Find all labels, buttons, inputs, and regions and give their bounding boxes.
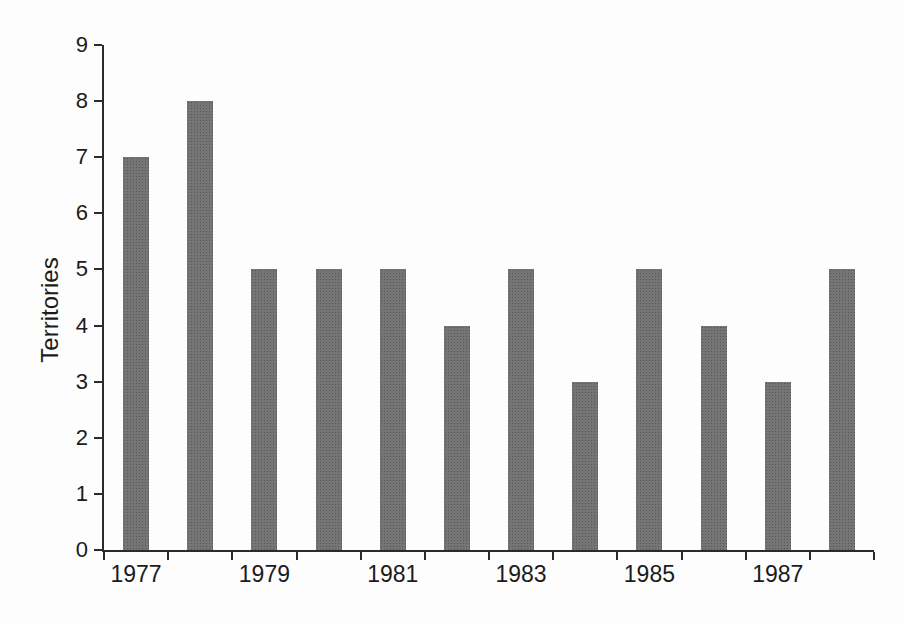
bar (316, 269, 342, 550)
y-axis-tick (94, 156, 102, 158)
x-axis-tick (424, 552, 426, 560)
bar (829, 269, 855, 550)
y-axis-tick (94, 437, 102, 439)
bar (251, 269, 277, 550)
x-axis-tick (167, 552, 169, 560)
x-axis-tick (745, 552, 747, 560)
x-axis-tick (809, 552, 811, 560)
y-tick-label: 0 (42, 538, 88, 562)
x-axis-tick (552, 552, 554, 560)
bar-chart-figure: Territories 0123456789197719791981198319… (0, 0, 904, 624)
x-axis-tick (873, 552, 875, 560)
x-axis-tick (103, 552, 105, 560)
bar (123, 157, 149, 550)
y-tick-label: 4 (42, 314, 88, 338)
y-tick-label: 3 (42, 370, 88, 394)
bar (508, 269, 534, 550)
x-tick-label: 1985 (609, 562, 689, 587)
bar (444, 326, 470, 550)
bar (187, 101, 213, 550)
bar (765, 382, 791, 550)
y-tick-label: 1 (42, 482, 88, 506)
y-tick-label: 2 (42, 426, 88, 450)
x-tick-label: 1977 (96, 562, 176, 587)
x-axis-tick (296, 552, 298, 560)
y-axis-tick (94, 44, 102, 46)
x-axis-tick (231, 552, 233, 560)
y-axis-tick (94, 268, 102, 270)
bar (636, 269, 662, 550)
y-axis-tick (94, 100, 102, 102)
y-axis-tick (94, 493, 102, 495)
y-tick-label: 9 (42, 33, 88, 57)
y-tick-label: 5 (42, 257, 88, 281)
x-axis-tick (360, 552, 362, 560)
bar (380, 269, 406, 550)
y-axis-tick (94, 212, 102, 214)
x-tick-label: 1979 (224, 562, 304, 587)
x-axis-tick (488, 552, 490, 560)
x-tick-label: 1981 (353, 562, 433, 587)
y-tick-label: 7 (42, 145, 88, 169)
x-axis-tick (681, 552, 683, 560)
y-axis-tick (94, 325, 102, 327)
x-tick-label: 1987 (738, 562, 818, 587)
x-tick-label: 1983 (481, 562, 561, 587)
x-axis-tick (616, 552, 618, 560)
y-axis-line (102, 45, 104, 552)
bar (572, 382, 598, 550)
bar (701, 326, 727, 550)
y-tick-label: 8 (42, 89, 88, 113)
y-axis-tick (94, 549, 102, 551)
y-axis-tick (94, 381, 102, 383)
y-tick-label: 6 (42, 201, 88, 225)
